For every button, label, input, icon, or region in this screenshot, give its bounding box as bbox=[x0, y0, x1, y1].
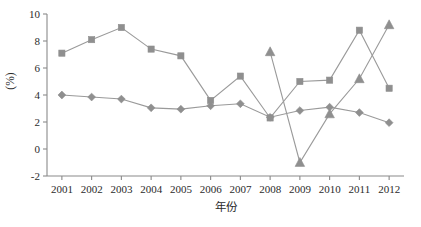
y-tick-label: 8 bbox=[35, 35, 41, 47]
chart-canvas: -202468102001200220032004200520062007200… bbox=[0, 0, 421, 227]
y-tick-label: 6 bbox=[35, 62, 41, 74]
series-diamond-point bbox=[88, 93, 96, 101]
x-tick-label: 2009 bbox=[289, 183, 312, 195]
series-diamond-point bbox=[236, 100, 244, 108]
x-axis-title: 年份 bbox=[215, 200, 238, 213]
series-square-point bbox=[118, 24, 124, 30]
y-tick-label: -2 bbox=[31, 170, 40, 182]
series-diamond-point bbox=[355, 109, 363, 117]
x-tick-label: 2003 bbox=[110, 183, 133, 195]
series-square-point bbox=[267, 115, 273, 121]
series-triangle-point bbox=[384, 20, 394, 29]
series-diamond-point bbox=[147, 104, 155, 112]
series-triangle-point bbox=[355, 74, 365, 83]
y-tick-label: 2 bbox=[35, 116, 41, 128]
series-square-point bbox=[208, 97, 214, 103]
series-square-point bbox=[297, 78, 303, 84]
series-square-point bbox=[386, 85, 392, 91]
series-diamond-point bbox=[117, 95, 125, 103]
x-tick-label: 2004 bbox=[140, 183, 163, 195]
series-square-point bbox=[59, 50, 65, 56]
y-tick-label: 4 bbox=[35, 89, 41, 101]
x-tick-label: 2006 bbox=[200, 183, 223, 195]
series-diamond-point bbox=[58, 91, 66, 99]
series-square-point bbox=[89, 37, 95, 43]
x-tick-label: 2011 bbox=[349, 183, 371, 195]
line-chart-figure: -202468102001200220032004200520062007200… bbox=[0, 0, 421, 227]
series-square-point bbox=[327, 77, 333, 83]
y-tick-label: 10 bbox=[29, 8, 41, 20]
x-tick-label: 2007 bbox=[229, 183, 252, 195]
series-square-point bbox=[356, 27, 362, 33]
x-tick-label: 2001 bbox=[51, 183, 73, 195]
x-tick-label: 2005 bbox=[170, 183, 193, 195]
series-square-point bbox=[148, 46, 154, 52]
x-tick-label: 2008 bbox=[259, 183, 282, 195]
series-diamond-line bbox=[62, 95, 389, 123]
series-diamond-point bbox=[385, 119, 393, 127]
series-square-point bbox=[237, 73, 243, 79]
y-tick-label: 0 bbox=[35, 143, 41, 155]
series-diamond-point bbox=[296, 107, 304, 115]
series-diamond-point bbox=[177, 105, 185, 113]
series-square-point bbox=[178, 53, 184, 59]
x-tick-label: 2002 bbox=[81, 183, 103, 195]
y-axis-title: (%) bbox=[4, 72, 17, 89]
x-tick-label: 2010 bbox=[319, 183, 342, 195]
series-triangle-line bbox=[270, 25, 389, 163]
x-tick-label: 2012 bbox=[378, 183, 400, 195]
series-triangle-point bbox=[265, 47, 275, 56]
series-triangle-point bbox=[295, 158, 305, 167]
